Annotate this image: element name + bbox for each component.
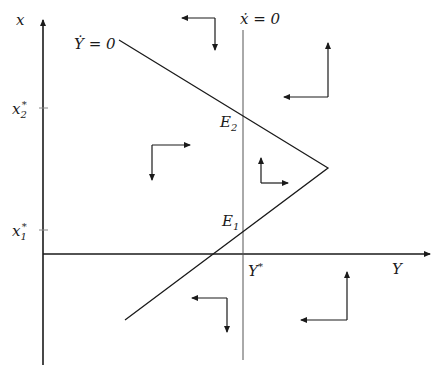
xdot-zero-label: ẋ = 0 [240,12,280,27]
direction-arrows-bottom-right [301,272,347,320]
direction-arrows-upper-right [284,43,328,97]
E2-label: E2 [220,115,237,133]
E1-label: E1 [222,214,239,232]
direction-arrows-top [182,18,215,50]
vertical-axis-label: x [16,13,24,28]
direction-arrows-left-middle [152,145,190,180]
direction-arrows-bottom-left [192,298,227,332]
diagram-canvas [0,0,444,377]
horizontal-axis-label: Y [392,262,402,277]
x1-star-label: x1* [12,222,27,242]
Ydot-zero-label: Ẏ = 0 [74,37,116,52]
x2-star-label: x2* [12,100,27,120]
Ydot-zero-line [119,40,328,320]
direction-arrows-inside [261,158,288,183]
Y-star-label: Y* [248,262,263,279]
